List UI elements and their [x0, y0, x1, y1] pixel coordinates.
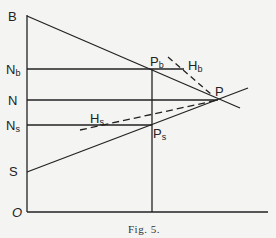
diagram: B Nb N Ns S O Pb Hb P Hs Ps Fig. 5. [0, 0, 276, 238]
label-ns: Ns [6, 118, 20, 134]
label-p: P [215, 84, 224, 99]
line-b [27, 16, 240, 108]
label-hs: Hs [90, 111, 104, 127]
label-b: B [8, 9, 17, 24]
label-s: S [9, 164, 18, 179]
label-pb: Pb [150, 54, 164, 70]
label-n: N [8, 93, 17, 108]
figure-caption: Fig. 5. [128, 223, 160, 235]
label-o: O [12, 205, 22, 220]
label-nb: Nb [6, 62, 20, 78]
label-ps: Ps [153, 126, 167, 142]
label-hb: Hb [188, 58, 202, 74]
figure-5: B Nb N Ns S O Pb Hb P Hs Ps Fig. 5. [0, 0, 276, 238]
